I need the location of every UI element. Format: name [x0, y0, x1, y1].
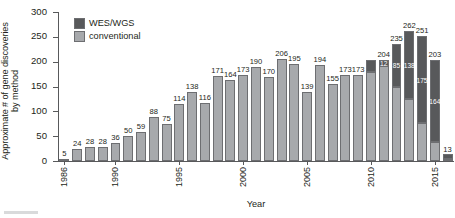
bar-segment-conventional — [200, 103, 210, 161]
bar-segment-wes-wgs — [366, 60, 376, 72]
bar-group[interactable]: 13 — [443, 12, 453, 161]
bar-stack — [149, 117, 159, 161]
bar-segment-conventional — [328, 84, 338, 161]
bar-stack — [59, 159, 69, 161]
x-axis-tick-mark — [64, 162, 65, 165]
bar-stack — [187, 92, 197, 161]
bar-segment-conventional — [162, 124, 172, 161]
bar-group[interactable]: 203164 — [430, 12, 440, 161]
bar-group[interactable]: 75 — [162, 12, 172, 161]
x-axis-tick-mark — [115, 162, 116, 165]
bar-segment-conventional — [213, 76, 223, 161]
bar-group[interactable]: 195 — [289, 12, 299, 161]
bar-segment-label: 12 — [380, 59, 387, 66]
figure-chart-gene-discoveries: Approximate # of gene discoveries by met… — [0, 0, 455, 218]
y-axis-title-line1: Approximate # of gene discoveries — [0, 22, 10, 160]
bar-value-label: 139 — [301, 83, 314, 91]
bar-group[interactable]: 59 — [136, 12, 146, 161]
bar-segment-conventional — [187, 92, 197, 161]
bar-segment-conventional — [353, 75, 363, 161]
bar-segment-conventional — [72, 149, 82, 161]
bar-segment-conventional — [379, 66, 389, 161]
bar-segment-label: 138 — [404, 62, 415, 69]
bar-group[interactable]: 262138 — [404, 12, 414, 161]
bar-group[interactable]: 116 — [200, 12, 210, 161]
bar-group[interactable]: 28 — [85, 12, 95, 161]
x-axis-tick-mark — [435, 162, 436, 165]
bar-group[interactable]: 36 — [111, 12, 121, 161]
bar-segment-label: 85 — [393, 62, 400, 69]
bar-group[interactable]: 155 — [328, 12, 338, 161]
bar-group[interactable]: 5 — [59, 12, 69, 161]
bar-stack — [123, 136, 133, 161]
bar-group[interactable]: 173 — [353, 12, 363, 161]
bar-group[interactable]: 24 — [72, 12, 82, 161]
bar-group[interactable]: 251175 — [417, 12, 427, 161]
bar-stack: 12 — [379, 60, 389, 161]
bar-group[interactable]: 20412 — [379, 12, 389, 161]
bar-segment-conventional — [123, 136, 133, 161]
bar-group[interactable]: 206 — [277, 12, 287, 161]
bar-group[interactable]: 28 — [98, 12, 108, 161]
bar-group[interactable]: 171 — [213, 12, 223, 161]
bar-segment-wes-wgs: 164 — [430, 60, 440, 141]
bar-group[interactable]: 88 — [149, 12, 159, 161]
bar-group[interactable]: 138 — [187, 12, 197, 161]
bar-group[interactable]: 164 — [225, 12, 235, 161]
bar-value-label: 59 — [137, 123, 145, 131]
bar-segment-wes-wgs: 85 — [392, 44, 402, 86]
bar-value-label: 114 — [173, 95, 185, 103]
bar-value-label: 251 — [416, 27, 429, 35]
bar-segment-conventional — [302, 92, 312, 161]
bar-segment-conventional — [340, 75, 350, 161]
bar-value-label: 50 — [124, 127, 132, 135]
bar-group[interactable]: 194 — [315, 12, 325, 161]
bar-segment-conventional — [136, 132, 146, 161]
x-axis-tick-label: 1995 — [174, 167, 184, 187]
bar-segment-conventional — [59, 159, 69, 161]
bar-value-label: 155 — [326, 75, 339, 83]
bar-group[interactable]: 114 — [174, 12, 184, 161]
x-axis-tick-label: 2005 — [302, 167, 312, 187]
bar-value-label: 194 — [314, 56, 327, 64]
bar-segment-conventional — [251, 67, 261, 161]
bar-group[interactable]: 173 — [238, 12, 248, 161]
bar-segment-wes-wgs: 175 — [417, 36, 427, 123]
bar-group[interactable]: 139 — [302, 12, 312, 161]
bar-value-label: 116 — [199, 94, 211, 102]
bar-segment-conventional — [85, 147, 95, 161]
bar-value-label: 173 — [339, 66, 352, 74]
bar-group[interactable]: 190 — [251, 12, 261, 161]
bar-group[interactable]: 23585 — [392, 12, 402, 161]
bar-value-label: 88 — [150, 108, 158, 116]
bar-group[interactable]: 173 — [340, 12, 350, 161]
bar-value-label: 173 — [352, 66, 365, 74]
bar-value-label: 173 — [237, 66, 250, 74]
bar-stack — [443, 154, 453, 161]
bar-segment-conventional — [277, 59, 287, 161]
bar-segment-conventional — [430, 142, 440, 161]
y-axis-title-line2: by method — [10, 0, 20, 182]
bar-value-label: 75 — [162, 115, 170, 123]
bar-stack — [328, 84, 338, 161]
y-axis-tick-label: 200 — [31, 55, 47, 66]
bar-stack: 175 — [417, 36, 427, 161]
bar-stack — [200, 103, 210, 161]
bar-segment-conventional — [98, 147, 108, 161]
x-axis-tick-mark — [179, 162, 180, 165]
bar-group[interactable]: 50 — [123, 12, 133, 161]
y-axis-tick-label: 300 — [31, 6, 47, 17]
bar-stack — [315, 65, 325, 161]
y-axis-tick-label: 150 — [31, 80, 47, 91]
x-axis-tick-label: 2015 — [430, 167, 440, 187]
bar-stack — [353, 75, 363, 161]
bar-group[interactable]: 170 — [264, 12, 274, 161]
bar-value-label: 235 — [390, 35, 403, 43]
bar-series-group: 5242828365059887511413811617116417319017… — [58, 12, 454, 161]
bar-value-label: 13 — [443, 146, 451, 154]
bar-group[interactable] — [366, 12, 376, 161]
bar-segment-conventional — [392, 87, 402, 162]
bar-stack: 85 — [392, 44, 402, 161]
y-axis-tick-label: 50 — [36, 130, 47, 141]
bar-value-label: 28 — [98, 138, 106, 146]
